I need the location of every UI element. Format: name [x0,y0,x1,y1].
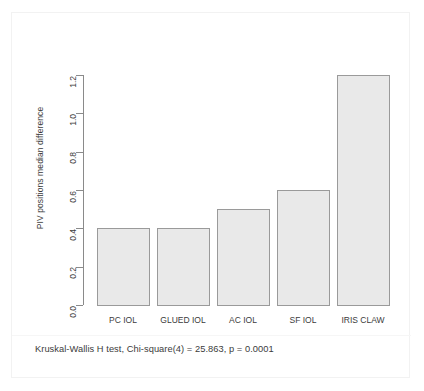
x-axis-tick-label: IRIS CLAW [341,315,384,325]
bar [97,228,150,306]
x-axis-tick-label: SF IOL [290,315,317,325]
x-axis-tick-label: PC IOL [109,315,137,325]
figure-card: PIV positions median difference 0.00.20.… [11,12,410,378]
bar [157,228,210,306]
figure-caption: Kruskal-Wallis H test, Chi-square(4) = 2… [35,344,274,354]
bar [217,209,270,306]
x-axis-tick-label: AC IOL [229,315,257,325]
bar [337,75,390,306]
bar-chart-plot: PIV positions median difference 0.00.20.… [12,13,411,379]
bar [277,190,330,306]
caption-divider [12,335,411,336]
x-axis-tick-label: GLUED IOL [160,315,205,325]
